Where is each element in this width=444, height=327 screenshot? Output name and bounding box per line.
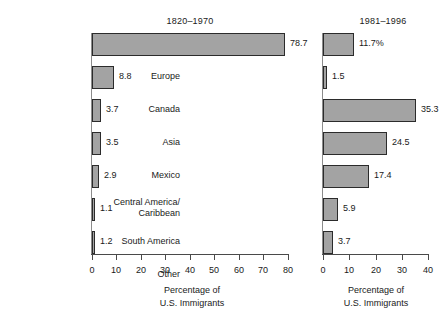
- x-axis-caption-left: Percentage of U.S. Immigrants: [112, 284, 272, 310]
- bar-value-right-central-america: 17.4: [374, 170, 392, 180]
- xtick-left-40: [190, 255, 191, 260]
- category-label-central-america: Central America/ Caribbean: [60, 197, 180, 219]
- panel-title-left: 1820–1970: [110, 16, 270, 26]
- xtick-right-10: [349, 255, 350, 260]
- xticklabel-right-0: 0: [311, 265, 335, 275]
- xticklabel-left-30: 30: [153, 265, 177, 275]
- xticklabel-left-70: 70: [251, 265, 275, 275]
- x-axis-caption-right: Percentage of U.S. Immigrants: [328, 284, 424, 310]
- xticklabel-left-40: 40: [178, 265, 202, 275]
- xticklabel-left-60: 60: [227, 265, 251, 275]
- xticklabel-right-10: 10: [337, 265, 361, 275]
- bar-value-left-asia: 3.7: [106, 104, 119, 114]
- xtick-left-10: [116, 255, 117, 260]
- bar-value-left-south-america: 1.1: [100, 203, 113, 213]
- category-label-group: Europe Canada Asia Mexico Central Americ…: [60, 66, 180, 288]
- bar-value-right-asia: 35.3: [421, 104, 439, 114]
- xtick-left-30: [165, 255, 166, 260]
- bar-left-asia: [92, 99, 101, 122]
- bar-right-canada: [323, 66, 327, 89]
- xticklabel-right-20: 20: [364, 265, 388, 275]
- category-label-canada: Canada: [60, 104, 180, 115]
- category-label-mexico: Mexico: [60, 170, 180, 181]
- bar-left-central-america: [92, 165, 99, 188]
- bar-value-left-canada: 8.8: [119, 71, 132, 81]
- xtick-right-0: [323, 255, 324, 260]
- bar-right-mexico: [323, 132, 387, 155]
- bar-left-other: [92, 231, 95, 254]
- xticklabel-left-50: 50: [202, 265, 226, 275]
- bar-value-right-canada: 1.5: [332, 71, 345, 81]
- xtick-right-30: [402, 255, 403, 260]
- plot-panel-1981-1996: 11.7% 1.5 35.3 24.5 17.4 5.9 3.7: [323, 33, 428, 255]
- bar-value-right-south-america: 5.9: [343, 203, 356, 213]
- panel-title-right: 1981–1996: [333, 16, 433, 26]
- xtick-left-70: [263, 255, 264, 260]
- bar-right-south-america: [323, 198, 338, 221]
- xticklabel-left-10: 10: [104, 265, 128, 275]
- xtick-left-80: [288, 255, 289, 260]
- xticklabel-right-40: 40: [416, 265, 440, 275]
- category-label-asia: Asia: [60, 137, 180, 148]
- xtick-left-20: [141, 255, 142, 260]
- plot-panel-1820-1970: Europe Canada Asia Mexico Central Americ…: [92, 33, 288, 255]
- bar-right-europe: [323, 33, 354, 56]
- bar-value-left-central-america: 2.9: [104, 170, 117, 180]
- bar-right-asia: [323, 99, 416, 122]
- immigration-bar-chart-figure: 1820–1970 1981–1996 Europe Canada Asia M…: [0, 0, 444, 327]
- xtick-right-20: [376, 255, 377, 260]
- xtick-left-60: [239, 255, 240, 260]
- bar-right-central-america: [323, 165, 369, 188]
- bar-value-right-other: 3.7: [338, 236, 351, 246]
- xticklabel-right-30: 30: [390, 265, 414, 275]
- xticklabel-left-80: 80: [276, 265, 300, 275]
- bar-value-left-mexico: 3.5: [106, 137, 119, 147]
- bar-left-canada: [92, 66, 114, 89]
- xticklabel-left-0: 0: [80, 265, 104, 275]
- bar-value-left-europe: 78.7: [290, 38, 308, 48]
- bar-left-south-america: [92, 198, 95, 221]
- bar-value-right-europe: 11.7%: [359, 38, 384, 48]
- bar-right-other: [323, 231, 333, 254]
- bar-left-mexico: [92, 132, 101, 155]
- bar-value-right-mexico: 24.5: [392, 137, 410, 147]
- xtick-left-50: [214, 255, 215, 260]
- xtick-right-40: [428, 255, 429, 260]
- xtick-left-0: [92, 255, 93, 260]
- bar-value-left-other: 1.2: [100, 236, 113, 246]
- category-label-south-america: South America: [60, 236, 180, 247]
- bar-left-europe: [92, 33, 285, 56]
- xticklabel-left-20: 20: [129, 265, 153, 275]
